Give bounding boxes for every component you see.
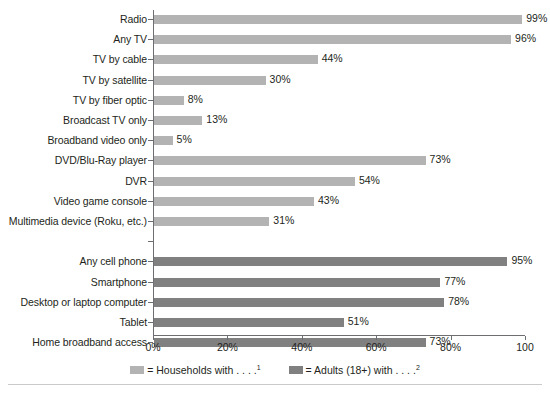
category-label: DVD/Blu-Ray player xyxy=(0,154,147,167)
category-label: Multimedia device (Roku, etc.) xyxy=(0,215,147,228)
bar xyxy=(154,35,511,44)
x-axis-tick xyxy=(302,336,303,340)
legend-item: = Households with . . . .1 xyxy=(130,364,260,377)
bar-row: Radio99% xyxy=(0,10,550,30)
x-axis-tick xyxy=(153,336,154,340)
bar xyxy=(154,116,202,125)
bar-row: Any cell phone95% xyxy=(0,252,550,272)
x-axis-tick-label: 20% xyxy=(217,341,238,354)
y-axis-tick xyxy=(148,140,153,141)
bar-row: Smartphone77% xyxy=(0,273,550,293)
y-axis-tick xyxy=(148,100,153,101)
category-label: Any cell phone xyxy=(0,255,147,268)
y-axis-tick xyxy=(148,39,153,40)
bar xyxy=(154,298,444,307)
bar-row: Any TV96% xyxy=(0,30,550,50)
chart-top-margin xyxy=(0,0,550,7)
bar-value-label: 8% xyxy=(188,93,203,106)
bar-row: DVR54% xyxy=(0,172,550,192)
bar-chart: Radio99%Any TV96%TV by cable44%TV by sat… xyxy=(0,0,550,393)
bar-value-label: 77% xyxy=(444,275,465,288)
y-axis-tick xyxy=(148,201,153,202)
y-axis-tick xyxy=(148,221,153,222)
bar-row-spacer xyxy=(0,232,550,252)
bar xyxy=(154,278,440,287)
bar xyxy=(154,76,266,85)
x-axis-tick-label: 80% xyxy=(440,341,461,354)
bar-row: Tablet51% xyxy=(0,313,550,333)
category-label: Broadcast TV only xyxy=(0,114,147,127)
x-axis-tick-label: 0% xyxy=(145,341,160,354)
legend-label: = Households with . . . .1 xyxy=(147,364,260,377)
bar-row: Broadcast TV only13% xyxy=(0,111,550,131)
x-axis-tick xyxy=(227,336,228,340)
y-axis-tick xyxy=(148,302,153,303)
category-label: Broadband video only xyxy=(0,134,147,147)
bar-row: Desktop or laptop computer78% xyxy=(0,293,550,313)
bar-value-label: 95% xyxy=(511,254,532,267)
bar xyxy=(154,15,522,24)
bar xyxy=(154,136,173,145)
x-axis-tick-label: 100 xyxy=(516,341,534,354)
bar-value-label: 44% xyxy=(322,52,343,65)
category-label: Any TV xyxy=(0,33,147,46)
x-axis-tick-label: 60% xyxy=(366,341,387,354)
bar-value-label: 13% xyxy=(206,113,227,126)
bar-value-label: 5% xyxy=(177,133,192,146)
chart-legend: = Households with . . . .1= Adults (18+)… xyxy=(0,362,550,378)
bar-value-label: 99% xyxy=(526,12,547,25)
legend-footnote-marker: 2 xyxy=(416,363,420,370)
bar xyxy=(154,257,507,266)
y-axis-tick xyxy=(148,120,153,121)
bar-row: Video game console43% xyxy=(0,192,550,212)
bar-row: TV by fiber optic8% xyxy=(0,91,550,111)
bar-value-label: 78% xyxy=(448,295,469,308)
y-axis-tick xyxy=(148,241,153,242)
bar-value-label: 31% xyxy=(273,214,294,227)
x-axis-tick xyxy=(451,336,452,340)
bar xyxy=(154,318,344,327)
category-label: Tablet xyxy=(0,316,147,329)
bar-row: DVD/Blu-Ray player73% xyxy=(0,151,550,171)
x-axis-tick xyxy=(376,336,377,340)
y-axis-tick xyxy=(148,59,153,60)
y-axis-tick xyxy=(148,261,153,262)
category-label: TV by fiber optic xyxy=(0,94,147,107)
legend-swatch xyxy=(289,366,303,374)
legend-swatch xyxy=(130,366,144,374)
legend-label: = Adults (18+) with . . . .2 xyxy=(306,364,420,377)
legend-footnote-marker: 1 xyxy=(257,363,261,370)
y-axis-tick xyxy=(148,322,153,323)
bar xyxy=(154,197,314,206)
x-axis-tick-label: 40% xyxy=(291,341,312,354)
bar xyxy=(154,177,355,186)
bar-value-label: 30% xyxy=(270,73,291,86)
y-axis-tick xyxy=(148,80,153,81)
bar xyxy=(154,156,426,165)
y-axis-tick xyxy=(148,282,153,283)
category-label: Smartphone xyxy=(0,276,147,289)
bar-value-label: 43% xyxy=(318,194,339,207)
bar-row: TV by satellite30% xyxy=(0,71,550,91)
category-label: TV by satellite xyxy=(0,74,147,87)
x-axis-ticks: 0%20%40%60%80%100 xyxy=(0,336,550,352)
y-axis-tick xyxy=(148,160,153,161)
bar xyxy=(154,96,184,105)
bar xyxy=(154,55,318,64)
bar-row: Broadband video only5% xyxy=(0,131,550,151)
category-label: Radio xyxy=(0,13,147,26)
y-axis-tick xyxy=(148,181,153,182)
bar xyxy=(154,217,269,226)
category-label: Desktop or laptop computer xyxy=(0,296,147,309)
bar-value-label: 51% xyxy=(348,315,369,328)
bar-row: Multimedia device (Roku, etc.)31% xyxy=(0,212,550,232)
x-axis-tick xyxy=(525,336,526,340)
bar-row: TV by cable44% xyxy=(0,50,550,70)
category-label: TV by cable xyxy=(0,53,147,66)
legend-item: = Adults (18+) with . . . .2 xyxy=(289,364,420,377)
category-label: DVR xyxy=(0,175,147,188)
bar-value-label: 73% xyxy=(430,153,451,166)
bar-value-label: 54% xyxy=(359,174,380,187)
y-axis-tick xyxy=(148,19,153,20)
footer-divider xyxy=(8,384,542,385)
